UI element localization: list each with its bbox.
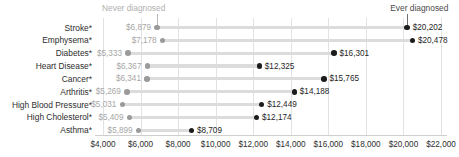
ever-diagnosed-value: $20,478 [418, 36, 448, 45]
never-diagnosed-value: $6,367 [65, 62, 141, 71]
never-diagnosed-value: $6,879 [75, 23, 151, 32]
never-diagnosed-value: $5,899 [57, 126, 133, 135]
never-diagnosed-pointer [157, 14, 158, 25]
never-diagnosed-dot[interactable] [154, 25, 160, 31]
connector-bar [128, 52, 334, 55]
ever-diagnosed-value: $16,301 [339, 49, 369, 58]
x-axis-tick-label: $6,000 [128, 140, 153, 150]
never-diagnosed-dot[interactable] [160, 38, 166, 44]
never-diagnosed-value: $5,269 [45, 87, 121, 96]
x-axis-tick-label: $20,000 [389, 140, 419, 150]
never-diagnosed-dot[interactable] [124, 89, 130, 95]
ever-diagnosed-annotation: Ever diagnosed [390, 3, 448, 13]
ever-diagnosed-dot[interactable] [254, 115, 260, 121]
x-axis-tick-label: $12,000 [238, 140, 268, 150]
connector-bar [147, 64, 259, 67]
never-diagnosed-value: $7,178 [81, 36, 157, 45]
x-axis-tick-label: $8,000 [166, 140, 191, 150]
ever-diagnosed-value: $20,202 [413, 23, 443, 32]
dumbbell-chart: Stroke*Emphysema*Diabetes*Heart Disease*… [0, 0, 459, 157]
ever-diagnosed-dot[interactable] [189, 128, 195, 134]
ever-diagnosed-dot[interactable] [404, 25, 410, 31]
ever-diagnosed-pointer [407, 14, 408, 25]
plot-area: $4,000$6,000$8,000$10,000$12,000$14,000$… [0, 0, 459, 157]
never-diagnosed-dot[interactable] [125, 50, 131, 56]
ever-diagnosed-value: $15,765 [329, 74, 359, 83]
x-axis-line [95, 135, 447, 136]
x-axis-tick-label: $10,000 [201, 140, 231, 150]
ever-diagnosed-value: $12,325 [265, 62, 295, 71]
never-diagnosed-dot[interactable] [120, 102, 126, 108]
never-diagnosed-dot[interactable] [127, 115, 133, 121]
gridline [403, 18, 404, 135]
x-axis-tick-label: $14,000 [276, 140, 306, 150]
connector-bar [163, 39, 413, 42]
connector-bar [127, 90, 294, 93]
ever-diagnosed-value: $8,709 [197, 126, 222, 135]
ever-diagnosed-dot[interactable] [292, 89, 298, 95]
connector-bar [122, 103, 261, 106]
ever-diagnosed-dot[interactable] [321, 76, 327, 82]
ever-diagnosed-value: $12,174 [262, 113, 292, 122]
connector-bar [147, 77, 324, 80]
x-axis-tick-label: $4,000 [90, 140, 115, 150]
never-diagnosed-value: $5,409 [47, 113, 123, 122]
gridline [366, 18, 367, 135]
ever-diagnosed-dot[interactable] [331, 50, 337, 56]
x-axis-tick-label: $18,000 [351, 140, 381, 150]
ever-diagnosed-dot[interactable] [257, 63, 263, 69]
x-axis-tick-label: $16,000 [314, 140, 344, 150]
ever-diagnosed-value: $12,449 [267, 100, 297, 109]
never-diagnosed-dot[interactable] [144, 76, 150, 82]
never-diagnosed-value: $6,341 [65, 74, 141, 83]
never-diagnosed-dot[interactable] [145, 63, 151, 69]
ever-diagnosed-value: $14,188 [300, 87, 330, 96]
ever-diagnosed-dot[interactable] [410, 38, 416, 44]
never-diagnosed-annotation: Never diagnosed [102, 3, 165, 13]
ever-diagnosed-dot[interactable] [259, 102, 265, 108]
x-axis-tick-label: $22,000 [426, 140, 456, 150]
connector-bar [129, 116, 256, 119]
never-diagnosed-value: $5,333 [46, 49, 122, 58]
never-diagnosed-value: $5,031 [40, 100, 116, 109]
connector-bar [157, 26, 407, 29]
connector-bar [139, 129, 192, 132]
